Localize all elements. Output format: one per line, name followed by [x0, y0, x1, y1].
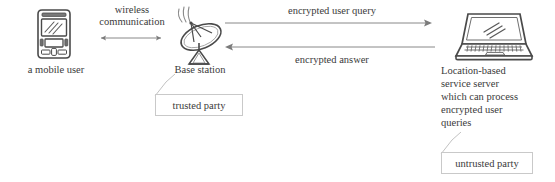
- encrypted-user-query-label: encrypted user query: [254, 5, 410, 17]
- trusted-party-text: trusted party: [173, 100, 226, 111]
- wireless-label-line-1: wireless: [84, 4, 180, 16]
- server-label-line-4: encrypted user: [441, 103, 549, 116]
- untrusted-party-text: untrusted party: [455, 158, 518, 169]
- diagram-canvas: a mobile user wireless communication: [0, 0, 555, 182]
- wireless-label-line-2: communication: [84, 16, 180, 28]
- wireless-bidirectional-arrow: [96, 30, 166, 42]
- encrypted-answer-label: encrypted answer: [254, 54, 410, 66]
- mobile-user-label: a mobile user: [8, 64, 104, 76]
- server-label-line-1: Location-based: [441, 64, 549, 77]
- server-label-line-3: which can process: [441, 90, 549, 103]
- base-station-label: Base station: [158, 64, 242, 76]
- mobile-phone-icon: [32, 8, 76, 60]
- wireless-communication-label: wireless communication: [84, 4, 180, 29]
- encrypted-answer-arrow: [224, 40, 436, 54]
- trusted-party-callout: trusted party: [155, 94, 243, 116]
- server-label: Location-based service server which can …: [441, 64, 549, 129]
- satellite-dish-icon: [168, 6, 230, 66]
- laptop-icon: [452, 12, 536, 62]
- encrypted-user-query-arrow: [224, 16, 436, 30]
- untrusted-party-callout: untrusted party: [441, 152, 533, 174]
- server-label-line-2: service server: [441, 77, 549, 90]
- server-label-line-5: queries: [441, 116, 549, 129]
